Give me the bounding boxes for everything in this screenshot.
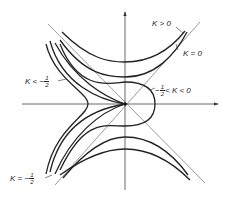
label-k-between: −12< K < 0	[155, 84, 191, 97]
fraction-denominator: 2	[29, 179, 34, 185]
curve-k-zero-upper	[55, 43, 125, 104]
label-k-between-suffix: < K < 0	[165, 86, 191, 95]
label-k-positive: K > 0	[152, 20, 171, 28]
label-k-zero: K = 0	[183, 50, 202, 58]
label-k-zero-text: K = 0	[183, 49, 202, 58]
label-k-less-half-prefix: K < −	[25, 77, 44, 86]
curve-k-positive-upper-2	[60, 32, 187, 77]
label-k-equal-half: K = −12	[10, 172, 34, 185]
label-k-positive-text: K > 0	[152, 19, 171, 28]
fraction-half: 12	[29, 172, 34, 185]
level-curves-figure: K > 0 K = 0 K < −12 −12< K < 0 K = −12	[0, 0, 228, 203]
label-k-equal-half-prefix: K = −	[10, 174, 29, 183]
label-k-less-half: K < −12	[25, 75, 49, 88]
leader-k-equal-half	[45, 175, 52, 178]
fraction-numerator: 1	[44, 75, 49, 82]
fraction-half: 12	[44, 75, 49, 88]
fraction-numerator: 1	[29, 172, 34, 179]
fraction-denominator: 2	[44, 82, 49, 88]
curve-k-positive-lower-1	[63, 137, 188, 178]
curve-k-positive-upper-1	[62, 31, 185, 62]
leader-k-positive	[176, 27, 183, 33]
leader-k-less-half	[58, 79, 66, 81]
